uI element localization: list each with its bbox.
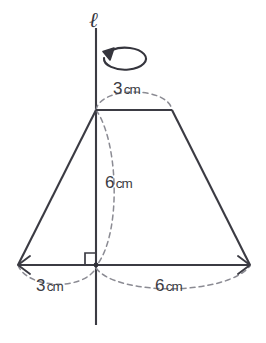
top-radius-unit: cm (124, 82, 140, 97)
bottom-right-unit: cm (166, 279, 182, 294)
trapezoid-left-slant (18, 110, 96, 265)
right-angle-marker-icon (85, 253, 96, 265)
axis-label: ℓ (89, 8, 98, 33)
height-value: 6 (105, 173, 114, 192)
height-label: 6cm (105, 173, 132, 193)
geometry-figure: ℓ 3cm 6cm 3cm 6cm (0, 0, 266, 343)
trapezoid-right-slant (172, 110, 250, 265)
bottom-left-label: 3cm (36, 276, 63, 296)
height-unit: cm (116, 176, 132, 191)
top-radius-label: 3cm (113, 79, 140, 99)
bottom-left-unit: cm (47, 279, 63, 294)
bottom-right-label: 6cm (155, 276, 182, 296)
bottom-right-value: 6 (155, 276, 164, 295)
top-radius-value: 3 (113, 79, 122, 98)
axis-foot-point (94, 263, 99, 268)
bottom-left-value: 3 (36, 276, 45, 295)
